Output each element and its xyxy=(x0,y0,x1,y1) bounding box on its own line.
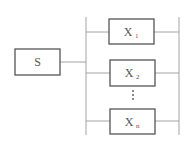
block-xn-label: X xyxy=(125,115,134,129)
block-s: S xyxy=(15,49,60,75)
parallel-system-diagram: S X 1 X 2 X n xyxy=(0,0,195,150)
block-xn: X n xyxy=(110,109,155,134)
block-x2: X 2 xyxy=(110,60,155,86)
block-xn-subscript: n xyxy=(136,122,140,130)
block-x1: X 1 xyxy=(109,19,154,44)
vertical-ellipsis xyxy=(132,90,134,100)
block-x2-subscript: 2 xyxy=(136,73,140,81)
block-x1-subscript: 1 xyxy=(135,32,139,40)
block-x1-label: X xyxy=(124,25,133,39)
block-x2-label: X xyxy=(125,66,134,80)
block-s-label: S xyxy=(34,55,41,69)
